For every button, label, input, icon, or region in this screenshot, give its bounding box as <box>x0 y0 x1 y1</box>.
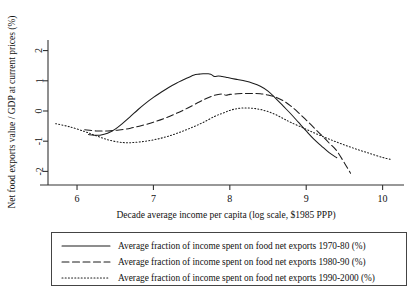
y-tick-label: -2 <box>34 167 45 175</box>
legend-label-2: Average fraction of income spent on food… <box>118 257 366 268</box>
x-tick-label: 9 <box>304 193 309 204</box>
y-axis-ticks: -2-1012 <box>34 48 49 176</box>
y-tick-label: 1 <box>34 78 45 83</box>
y-axis-title: Net food exports value / GDP at current … <box>7 15 18 208</box>
x-tick-label: 6 <box>75 193 80 204</box>
x-tick-label: 8 <box>227 193 232 204</box>
axes <box>40 40 404 185</box>
y-tick-label: 2 <box>34 48 45 53</box>
chart-figure: -2-1012 678910 Net food exports value / … <box>0 0 414 292</box>
series-line-2 <box>85 93 351 173</box>
x-axis-ticks: 678910 <box>75 185 388 204</box>
legend-label-1: Average fraction of income spent on food… <box>118 241 366 252</box>
x-axis-title: Decade average income per capita (log sc… <box>116 210 335 221</box>
series-line-1 <box>88 74 336 158</box>
legend-label-3: Average fraction of income spent on food… <box>118 273 375 284</box>
y-tick-label: -1 <box>34 137 45 145</box>
y-tick-label: 0 <box>34 108 45 113</box>
series-lines <box>56 74 391 173</box>
legend: Average fraction of income spent on food… <box>52 233 407 286</box>
net-food-exports-line-chart: -2-1012 678910 Net food exports value / … <box>0 0 414 292</box>
x-tick-label: 7 <box>151 193 156 204</box>
x-tick-label: 10 <box>378 193 388 204</box>
